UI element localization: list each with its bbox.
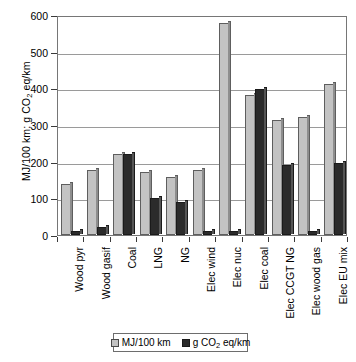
gridline: [58, 90, 346, 91]
bar-ng-co2: [176, 202, 185, 235]
x-tick-mark: [347, 237, 348, 242]
x-axis-label-elec-coal: Elec coal: [259, 247, 270, 290]
y-tick-label: 100: [10, 194, 48, 205]
bar-ng-mj: [166, 177, 175, 235]
x-tick-mark: [83, 237, 84, 242]
x-tick-mark: [189, 237, 190, 242]
x-tick-mark: [242, 237, 243, 242]
y-tick-label: 400: [10, 84, 48, 95]
x-tick-mark: [110, 237, 111, 242]
bar-elec-wood-gas-mj: [298, 117, 307, 235]
bar-elec-coal-co2: [255, 89, 264, 235]
bar-wood-pyr-co2: [71, 231, 80, 235]
bar-elec-eu-mix-mj: [324, 84, 333, 235]
x-axis-label-elec-wood-gas: Elec wood gas: [311, 247, 322, 315]
bar-elec-wind-mj: [193, 170, 202, 235]
bar-coal-mj: [113, 154, 122, 235]
x-axis-label-elec-wind: Elec wind: [206, 247, 217, 292]
bar-elec-wood-gas-co2: [308, 231, 317, 235]
legend-label-co2: g CO2 eq/km: [193, 338, 251, 348]
x-axis-label-ng: NG: [180, 247, 191, 263]
legend-label-mj: MJ/100 km: [122, 338, 171, 348]
bar-lng-mj: [140, 172, 149, 235]
bar-elec-ccgt-ng-mj: [272, 120, 281, 235]
legend-swatch-dark-swatch: [182, 339, 190, 347]
bar-chart: MJ/100 km; g CO2 eq/km 01002003004005006…: [0, 0, 356, 362]
x-axis-label-elec-eu-mix: Elec EU mix: [338, 247, 349, 304]
x-tick-mark: [268, 237, 269, 242]
legend-item-mj: MJ/100 km: [111, 338, 171, 348]
bar-coal-co2: [123, 154, 132, 235]
bar-wood-gasif-mj: [87, 170, 96, 235]
x-axis-label-coal: Coal: [127, 247, 138, 269]
x-axis-label-elec-nuc: Elec nuc: [232, 247, 243, 287]
y-tick-label: 500: [10, 48, 48, 59]
x-axis-label-wood-pyr: Wood pyr: [74, 247, 85, 292]
bar-elec-nuc-mj: [219, 23, 228, 235]
y-tick-label: 200: [10, 158, 48, 169]
x-tick-mark: [162, 237, 163, 242]
bar-elec-wind-co2: [203, 231, 212, 235]
x-tick-mark: [321, 237, 322, 242]
legend-label-co2-subscript: 2: [216, 341, 220, 350]
chart-legend: MJ/100 km g CO2 eq/km: [113, 333, 248, 352]
x-axis-label-wood-gasif: Wood gasif: [101, 247, 112, 299]
bar-lng-co2: [150, 198, 159, 235]
bar-wood-pyr-mj: [61, 184, 70, 235]
legend-item-co2: g CO2 eq/km: [182, 338, 251, 348]
legend-label-co2-suffix: eq/km: [220, 337, 250, 348]
gridline: [58, 54, 346, 55]
x-tick-mark: [136, 237, 137, 242]
y-tick-label: 300: [10, 121, 48, 132]
bar-wood-gasif-co2: [97, 227, 106, 235]
x-tick-mark: [215, 237, 216, 242]
plot-area: [57, 16, 347, 236]
x-axis-label-elec-ccgt-ng: Elec CCGT NG: [285, 247, 296, 319]
bar-elec-eu-mix-co2: [334, 163, 343, 235]
x-axis-label-lng: LNG: [153, 247, 164, 269]
bar-elec-coal-mj: [245, 95, 254, 235]
y-tick-label: 600: [10, 11, 48, 22]
legend-label-co2-prefix: g CO: [193, 337, 216, 348]
x-tick-mark: [294, 237, 295, 242]
bar-elec-ccgt-ng-co2: [282, 165, 291, 235]
y-tick-label: 0: [10, 231, 48, 242]
bar-elec-nuc-co2: [229, 231, 238, 235]
x-tick-mark: [57, 237, 58, 242]
legend-swatch-light-gray-swatch: [111, 339, 119, 347]
